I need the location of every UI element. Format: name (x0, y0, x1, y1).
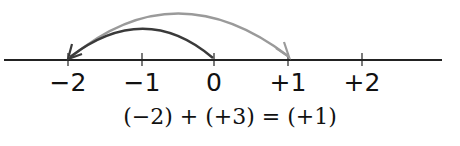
tick-label-minus-2: −2 (50, 68, 87, 97)
tick-label-plus-2: +2 (344, 68, 381, 97)
tick-label-0: 0 (206, 68, 222, 97)
equation: (−2) + (+3) = (+1) (0, 104, 460, 129)
tick-label-minus-1: −1 (124, 68, 161, 97)
number-line-diagram: −2 −1 0 +1 +2 (−2) + (+3) = (+1) (0, 0, 460, 146)
gray-arrowhead-icon (276, 42, 289, 57)
tick-label-plus-1: +1 (270, 68, 307, 97)
